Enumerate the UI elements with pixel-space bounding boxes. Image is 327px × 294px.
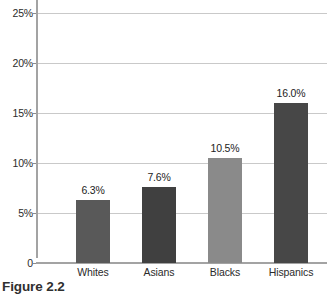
y-tick-label: 5% <box>18 207 33 219</box>
bar-group-whites: 6.3% <box>60 0 126 263</box>
bar-value-label: 16.0% <box>258 87 324 99</box>
y-axis-tick-labels: 25% 20% 15% 10% 5% 0 <box>0 0 33 289</box>
bars-layer: 6.3% 7.6% 10.5% 16.0% <box>38 0 327 263</box>
y-tick-label: 15% <box>13 107 33 119</box>
y-tick-label: 10% <box>13 157 33 169</box>
bar-group-hispanics: 16.0% <box>258 0 324 263</box>
x-tick-label-whites: Whites <box>60 266 126 278</box>
x-tick-label-asians: Asians <box>126 266 192 278</box>
y-tick-label: 20% <box>13 57 33 69</box>
figure-caption: Figure 2.2 <box>2 279 327 294</box>
bar-blacks <box>208 158 242 263</box>
bar-whites <box>76 200 110 263</box>
x-tick-label-blacks: Blacks <box>192 266 258 278</box>
bar-value-label: 7.6% <box>126 171 192 183</box>
y-tick-label: 25% <box>13 7 33 19</box>
bar-hispanics <box>274 103 308 263</box>
bar-group-blacks: 10.5% <box>192 0 258 263</box>
bar-value-label: 10.5% <box>192 142 258 154</box>
bar-group-asians: 7.6% <box>126 0 192 263</box>
bar-value-label: 6.3% <box>60 184 126 196</box>
bar-asians <box>142 187 176 263</box>
x-tick-label-hispanics: Hispanics <box>258 266 324 278</box>
